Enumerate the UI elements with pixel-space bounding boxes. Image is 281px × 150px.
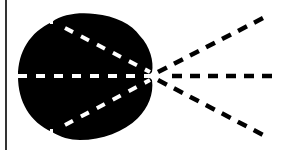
ray-upper-outer — [158, 15, 269, 72]
lobe-notch-top — [50, 18, 53, 24]
lobe-notch-bottom — [50, 129, 53, 135]
lobe-diagram — [0, 0, 281, 150]
ray-lower-outer — [158, 80, 267, 137]
outer-rays — [158, 15, 279, 137]
